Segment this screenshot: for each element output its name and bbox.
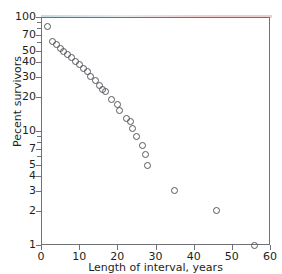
y-tick-label: 20	[22, 91, 36, 102]
data-point	[139, 142, 146, 149]
y-tick-label: 30	[22, 71, 36, 82]
y-tick-mark	[36, 131, 41, 132]
data-point	[129, 125, 136, 132]
y-tick-mark	[36, 35, 41, 36]
y-tick-mark	[36, 191, 41, 192]
y-tick-mark	[36, 62, 41, 63]
y-tick-label: 1	[29, 239, 36, 250]
y-minor-tick-mark	[37, 42, 41, 43]
data-point	[116, 107, 123, 114]
y-minor-tick-mark	[37, 22, 41, 23]
y-minor-tick-mark	[37, 156, 41, 157]
x-axis-title: Length of interval, years	[41, 261, 270, 274]
y-tick-label: 10	[22, 125, 36, 136]
data-point	[171, 187, 178, 194]
y-tick-mark	[36, 211, 41, 212]
chart-figure: 123457102030405070100 0102030405060 Pece…	[0, 0, 282, 274]
y-tick-label: 100	[15, 11, 36, 22]
y-tick-label: 7	[29, 143, 36, 154]
y-minor-tick-mark	[37, 142, 41, 143]
y-tick-mark	[36, 17, 41, 18]
data-point	[144, 162, 151, 169]
y-tick-label: 40	[22, 56, 36, 67]
data-point	[102, 88, 109, 95]
y-tick-mark	[36, 97, 41, 98]
scatter-data-layer	[41, 17, 270, 245]
y-tick-label: 70	[22, 29, 36, 40]
data-point	[44, 23, 51, 30]
y-tick-mark	[36, 77, 41, 78]
y-tick-mark	[36, 176, 41, 177]
y-tick-label: 5	[29, 159, 36, 170]
y-tick-mark	[36, 149, 41, 150]
data-point	[142, 151, 149, 158]
data-point	[133, 133, 140, 140]
y-tick-mark	[36, 165, 41, 166]
y-tick-label: 50	[22, 45, 36, 56]
y-tick-label: 4	[29, 170, 36, 181]
y-tick-mark	[36, 51, 41, 52]
data-point	[213, 207, 220, 214]
y-minor-tick-mark	[37, 28, 41, 29]
y-tick-label: 3	[29, 185, 36, 196]
y-axis-title: Pecent survivors	[11, 42, 24, 162]
y-minor-tick-mark	[37, 136, 41, 137]
y-tick-label: 2	[29, 205, 36, 216]
